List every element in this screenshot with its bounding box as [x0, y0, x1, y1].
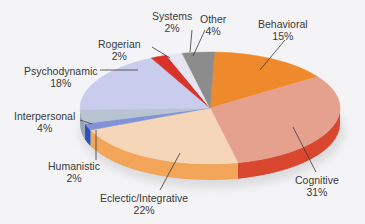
label-name: Humanistic: [48, 160, 100, 172]
label-value: 22%: [100, 204, 188, 216]
label-behavioral: Behavioral 15%: [258, 18, 308, 42]
label-name: Behavioral: [258, 18, 308, 30]
label-value: 2%: [48, 172, 100, 184]
label-rogerian: Rogerian 2%: [98, 38, 141, 62]
label-name: Cognitive: [295, 174, 339, 186]
label-name: Eclectic/Integrative: [100, 192, 188, 204]
label-name: Psychodynamic: [24, 65, 98, 77]
label-name: Interpersonal: [14, 110, 75, 122]
label-name: Systems: [152, 10, 192, 22]
label-interpersonal: Interpersonal 4%: [14, 110, 75, 134]
label-value: 18%: [24, 77, 98, 89]
label-value: 31%: [295, 186, 339, 198]
label-name: Rogerian: [98, 38, 141, 50]
label-eclectic: Eclectic/Integrative 22%: [100, 192, 188, 216]
pie-slices: [80, 52, 340, 164]
label-systems: Systems 2%: [152, 10, 192, 34]
label-name: Other: [200, 13, 226, 25]
label-value: 4%: [14, 122, 75, 134]
label-value: 15%: [258, 30, 308, 42]
label-humanistic: Humanistic 2%: [48, 160, 100, 184]
label-other: Other 4%: [200, 13, 226, 37]
label-value: 4%: [200, 25, 226, 37]
label-psychodynamic: Psychodynamic 18%: [24, 65, 98, 89]
label-cognitive: Cognitive 31%: [295, 174, 339, 198]
label-value: 2%: [152, 22, 192, 34]
label-value: 2%: [98, 50, 141, 62]
